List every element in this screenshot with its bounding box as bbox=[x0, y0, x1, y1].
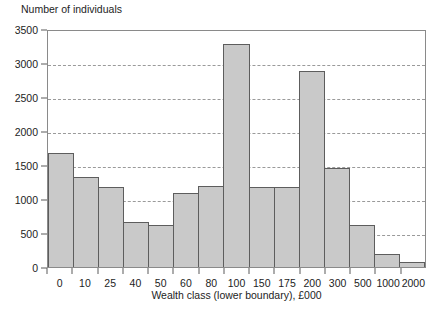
bar bbox=[48, 153, 74, 267]
y-axis-tick-label: 1500 bbox=[15, 161, 38, 172]
bar bbox=[324, 168, 350, 267]
x-axis-tick-mark bbox=[198, 268, 199, 274]
bar bbox=[148, 225, 174, 268]
bar bbox=[274, 187, 300, 267]
bar bbox=[198, 186, 224, 267]
x-axis-title: Wealth class (lower boundary), £000 bbox=[47, 289, 426, 302]
x-axis-tick-label: 300 bbox=[329, 277, 347, 289]
x-axis-tick-mark bbox=[97, 268, 98, 274]
x-axis-tick-mark bbox=[148, 268, 149, 274]
x-axis-tick-label: 60 bbox=[180, 277, 192, 289]
bar bbox=[299, 71, 325, 267]
y-axis-tick-label: 3500 bbox=[15, 25, 38, 36]
x-axis-tick-mark bbox=[72, 268, 73, 274]
bar bbox=[374, 254, 400, 267]
y-axis: 0500100015002000250030003500 bbox=[0, 30, 47, 268]
y-axis-tick-label: 1000 bbox=[15, 195, 38, 206]
y-axis-tick-label: 0 bbox=[32, 263, 38, 274]
x-axis-tick-label: 10 bbox=[79, 277, 91, 289]
x-axis-tick-label: 100 bbox=[228, 277, 246, 289]
bar bbox=[123, 222, 149, 267]
x-axis-tick-label: 0 bbox=[57, 277, 63, 289]
y-axis-tick-label: 2000 bbox=[15, 127, 38, 138]
bar bbox=[399, 262, 425, 267]
bar bbox=[349, 225, 375, 268]
x-axis-tick-mark bbox=[47, 268, 48, 274]
x-axis-tick-label: 175 bbox=[278, 277, 296, 289]
bar bbox=[173, 193, 199, 267]
x-axis-tick-mark bbox=[299, 268, 300, 274]
x-axis-tick-mark bbox=[249, 268, 250, 274]
bar bbox=[223, 44, 249, 267]
x-axis-tick-mark bbox=[375, 268, 376, 274]
x-axis-tick-mark bbox=[274, 268, 275, 274]
x-axis-tick-label: 80 bbox=[205, 277, 217, 289]
bar-series bbox=[48, 31, 425, 267]
x-axis-tick-label: 25 bbox=[104, 277, 116, 289]
bar bbox=[249, 187, 275, 267]
x-axis-tick-mark bbox=[324, 268, 325, 274]
x-axis-tick-label: 1000 bbox=[376, 277, 399, 289]
x-axis-tick-label: 500 bbox=[354, 277, 372, 289]
x-axis-tick-mark bbox=[350, 268, 351, 274]
x-axis-tick-label: 150 bbox=[253, 277, 271, 289]
x-axis-tick-label: 50 bbox=[155, 277, 167, 289]
x-axis-tick-mark bbox=[173, 268, 174, 274]
bar bbox=[98, 187, 124, 267]
y-axis-tick-label: 3000 bbox=[15, 59, 38, 70]
y-axis-tick-label: 2500 bbox=[15, 93, 38, 104]
y-axis-tick-label: 500 bbox=[20, 229, 38, 240]
histogram-figure: Number of individuals 050010001500200025… bbox=[0, 0, 439, 315]
plot-area bbox=[47, 30, 426, 268]
x-axis-tick-label: 40 bbox=[130, 277, 142, 289]
x-axis-tick-mark bbox=[223, 268, 224, 274]
bar bbox=[73, 177, 99, 267]
x-axis-tick-label: 2000 bbox=[402, 277, 425, 289]
y-axis-title: Number of individuals bbox=[21, 3, 122, 16]
x-axis-tick-label: 200 bbox=[304, 277, 322, 289]
x-axis-tick-mark bbox=[400, 268, 401, 274]
x-axis-tick-mark bbox=[122, 268, 123, 274]
